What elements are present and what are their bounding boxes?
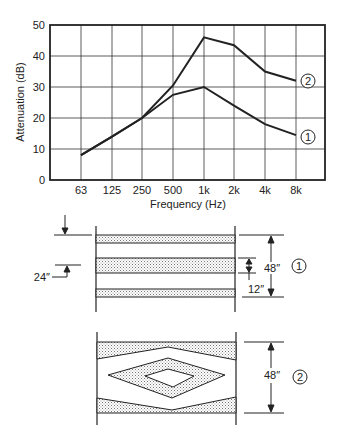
- y-tick: 40: [33, 50, 45, 62]
- x-tick: 63: [75, 184, 87, 196]
- diagram-2-marker: 2: [293, 370, 307, 384]
- series-1-line: [81, 87, 296, 155]
- bottom-liner: [97, 397, 236, 413]
- attenuation-chart: 0 10 20 30 40 50 63 125 250 500 1k 2k 4k…: [14, 19, 325, 210]
- baffle-diagram-1: 24″ 48″ 12″ 1: [34, 215, 306, 312]
- chart-frame: [50, 25, 325, 180]
- y-axis-ticks: 0 10 20 30 40 50: [33, 19, 45, 186]
- series-2-marker-label: 2: [305, 75, 311, 87]
- diamond-baffle: [108, 358, 225, 398]
- x-tick: 500: [164, 184, 182, 196]
- spacing-label: 24″: [34, 271, 50, 283]
- y-tick: 50: [33, 19, 45, 31]
- y-tick: 0: [39, 174, 45, 186]
- y-tick: 20: [33, 112, 45, 124]
- chart-grid: [50, 25, 325, 180]
- baffle-panel: [96, 289, 235, 297]
- figure-canvas: 0 10 20 30 40 50 63 125 250 500 1k 2k 4k…: [0, 0, 343, 444]
- y-axis-title: Attenuation (dB): [14, 62, 26, 142]
- series-2-marker: 2: [301, 74, 315, 88]
- x-tick: 8k: [290, 184, 302, 196]
- baffle-panel: [96, 258, 235, 273]
- diagram-1-marker: 1: [292, 259, 306, 273]
- x-tick: 1k: [198, 184, 210, 196]
- top-liner: [97, 342, 236, 360]
- x-tick: 2k: [228, 184, 240, 196]
- series-1-marker-label: 1: [305, 131, 311, 143]
- spacing-dimension: [52, 215, 92, 277]
- height-label: 48″: [264, 369, 280, 381]
- series-2-line: [81, 37, 296, 155]
- diagram-2-marker-label: 2: [297, 371, 303, 383]
- x-tick: 250: [133, 184, 151, 196]
- height-label: 48″: [264, 262, 280, 274]
- baffle-panel: [96, 235, 235, 243]
- y-tick: 10: [33, 143, 45, 155]
- thickness-label: 12″: [248, 283, 264, 295]
- x-axis-title: Frequency (Hz): [150, 198, 226, 210]
- diagram-1-marker-label: 1: [296, 260, 302, 272]
- x-axis-ticks: 63 125 250 500 1k 2k 4k 8k: [75, 184, 302, 196]
- x-tick: 125: [103, 184, 121, 196]
- y-tick: 30: [33, 81, 45, 93]
- series-1-marker: 1: [301, 130, 315, 144]
- baffle-diagram-2: 48″ 2: [97, 332, 307, 425]
- x-tick: 4k: [259, 184, 271, 196]
